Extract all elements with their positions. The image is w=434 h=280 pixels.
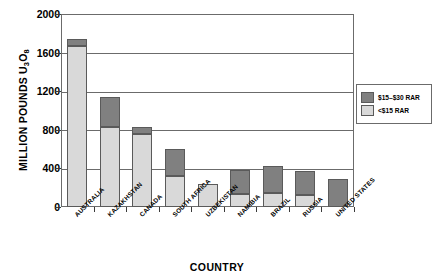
x-tick-mark	[159, 207, 160, 212]
y-tick-mark-1200	[55, 91, 61, 92]
y-tick-label-800: 800	[0, 124, 60, 136]
x-tick-mark	[354, 207, 355, 212]
x-tick-mark	[94, 207, 95, 212]
legend-swatch-light-icon	[361, 105, 374, 116]
y-tick-label-1600: 1600	[0, 47, 60, 59]
legend-item-0: $15–$30 RAR	[361, 92, 428, 103]
x-tick-mark	[224, 207, 225, 212]
y-tick-label-0: 0	[0, 201, 60, 213]
legend-label-1: <$15 RAR	[378, 107, 409, 114]
legend-item-1: <$15 RAR	[361, 105, 428, 116]
bar-segment-15-30	[100, 97, 120, 127]
bar-segment-under15	[67, 46, 87, 207]
bar-segment-15-30	[67, 39, 87, 46]
bar-segment-under15	[132, 134, 152, 207]
bar-segment-under15	[100, 127, 120, 207]
y-tick-mark-2000	[55, 14, 61, 15]
x-axis-title: COUNTRY	[0, 261, 434, 273]
legend-label-0: $15–$30 RAR	[378, 94, 420, 101]
uranium-resources-bar-chart: MILLION POUNDS U3O8 COUNTRY $15–$30 RAR …	[0, 0, 434, 280]
legend: $15–$30 RAR <$15 RAR	[356, 84, 432, 124]
x-tick-mark	[191, 207, 192, 212]
bar-segment-15-30	[132, 127, 152, 134]
y-tick-label-400: 400	[0, 162, 60, 174]
y-tick-label-1200: 1200	[0, 85, 60, 97]
x-tick-mark	[321, 207, 322, 212]
bar-segment-15-30	[263, 166, 283, 193]
x-tick-mark	[289, 207, 290, 212]
y-tick-mark-800	[55, 130, 61, 131]
y-tick-mark-0	[55, 207, 61, 208]
y-tick-label-2000: 2000	[0, 8, 60, 20]
x-tick-mark	[126, 207, 127, 212]
y-axis-title-text: MILLION POUNDS U	[17, 66, 29, 171]
bar-segment-15-30	[165, 149, 185, 176]
x-tick-mark	[256, 207, 257, 212]
y-tick-mark-400	[55, 168, 61, 169]
bar-segment-15-30	[295, 171, 315, 195]
legend-swatch-dark-icon	[361, 92, 374, 103]
y-tick-mark-1600	[55, 53, 61, 54]
y-axis-title-sub-3: 3	[22, 62, 31, 66]
